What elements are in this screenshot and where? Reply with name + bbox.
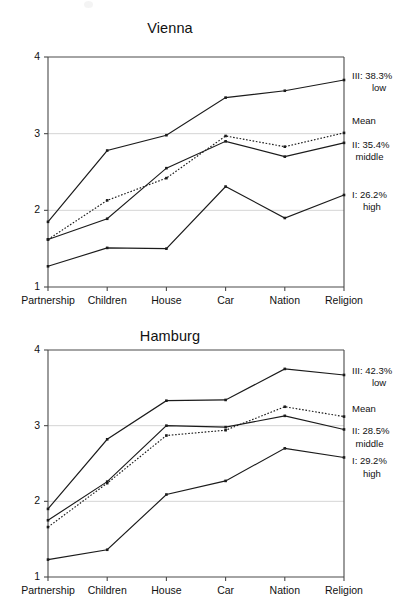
data-point <box>224 135 227 138</box>
x-axis-tick-label-2: House <box>151 294 181 306</box>
x-axis-tick-label-1: Children <box>88 584 127 596</box>
data-point <box>343 79 346 82</box>
data-point <box>224 426 227 429</box>
legend-label-primary: I: 26.2% <box>352 189 387 201</box>
legend-label-secondary: middle <box>352 438 390 450</box>
data-point <box>224 429 227 432</box>
legend-label-secondary: low <box>352 82 392 94</box>
legend-entry-2: II: 35.4%middle <box>352 139 390 163</box>
series-line-3 <box>48 448 344 559</box>
data-point <box>343 456 346 459</box>
legend-label-secondary: high <box>352 468 387 480</box>
data-point <box>284 368 287 371</box>
data-point <box>165 167 168 170</box>
legend-label-primary: II: 35.4% <box>352 139 390 151</box>
x-axis-tick-label-0: Partnership <box>21 294 75 306</box>
legend-label-secondary: middle <box>352 151 390 163</box>
data-point <box>165 134 168 137</box>
data-point <box>106 548 109 551</box>
data-point <box>284 415 287 418</box>
data-point <box>165 399 168 402</box>
legend-label-primary: Mean <box>352 115 376 127</box>
legend-entry-0: III: 38.3%low <box>352 70 392 94</box>
legend-entry-1: Mean <box>352 115 376 127</box>
y-axis-tick-label-4: 4 <box>18 343 40 355</box>
data-point <box>106 247 109 250</box>
data-point <box>284 405 287 408</box>
legend-entry-1: Mean <box>352 403 376 415</box>
data-point <box>47 508 50 511</box>
legend-entry-3: I: 26.2%high <box>352 189 387 213</box>
data-point <box>47 558 50 561</box>
data-point <box>224 399 227 402</box>
data-point <box>106 217 109 220</box>
y-axis-tick-label-3: 3 <box>18 127 40 139</box>
data-point <box>343 142 346 145</box>
y-axis-tick-label-4: 4 <box>18 50 40 62</box>
data-point <box>343 194 346 197</box>
data-point <box>284 145 287 148</box>
y-axis-tick-label-2: 2 <box>18 203 40 215</box>
data-point <box>224 96 227 99</box>
x-axis-tick-label-2: House <box>151 584 181 596</box>
series-line-0 <box>48 80 344 222</box>
legend-entry-3: I: 29.2%high <box>352 455 387 479</box>
y-axis-tick-label-1: 1 <box>18 280 40 292</box>
series-line-2 <box>48 416 344 520</box>
legend-label-secondary: low <box>352 377 392 389</box>
data-point <box>284 155 287 158</box>
legend-label-primary: I: 29.2% <box>352 455 387 467</box>
legend-label-primary: II: 28.5% <box>352 425 390 437</box>
data-point <box>47 238 50 241</box>
data-point <box>106 438 109 441</box>
figure-page: Vienna 4321PartnershipChildrenHouseCarNa… <box>0 0 416 615</box>
x-axis-tick-label-5: Religion <box>325 584 363 596</box>
chart-panel-vienna: Vienna 4321PartnershipChildrenHouseCarNa… <box>0 0 416 310</box>
data-point <box>284 447 287 450</box>
legend-label-primary: Mean <box>352 403 376 415</box>
data-point <box>343 428 346 431</box>
series-line-2 <box>48 141 344 239</box>
y-axis-tick-label-2: 2 <box>18 494 40 506</box>
x-axis-tick-label-3: Car <box>217 584 234 596</box>
data-point <box>106 480 109 483</box>
data-point <box>284 89 287 92</box>
data-point <box>47 221 50 224</box>
data-point <box>165 434 168 437</box>
legend-entry-0: III: 42.3%low <box>352 365 392 389</box>
legend-entry-2: II: 28.5%middle <box>352 425 390 449</box>
data-point <box>106 149 109 152</box>
series-line-3 <box>48 187 344 267</box>
data-point <box>284 217 287 220</box>
data-point <box>165 247 168 250</box>
data-point <box>106 199 109 202</box>
y-axis-tick-label-1: 1 <box>18 570 40 582</box>
data-point <box>165 493 168 496</box>
x-axis-tick-label-4: Nation <box>270 584 300 596</box>
data-point <box>343 132 346 135</box>
legend-label-primary: III: 42.3% <box>352 365 392 377</box>
data-point <box>165 177 168 180</box>
data-point <box>47 526 50 529</box>
x-axis-tick-label-1: Children <box>88 294 127 306</box>
legend-label-secondary: high <box>352 201 387 213</box>
x-axis-tick-label-5: Religion <box>325 294 363 306</box>
data-point <box>224 480 227 483</box>
data-point <box>343 415 346 418</box>
chart-panel-hamburg: Hamburg 4321PartnershipChildrenHouseCarN… <box>0 310 416 615</box>
data-point <box>47 265 50 268</box>
data-point <box>165 424 168 427</box>
data-point <box>47 519 50 522</box>
series-line-1 <box>48 407 344 527</box>
data-point <box>224 185 227 188</box>
x-axis-tick-label-3: Car <box>217 294 234 306</box>
data-point <box>343 374 346 377</box>
legend-label-primary: III: 38.3% <box>352 70 392 82</box>
y-axis-tick-label-3: 3 <box>18 419 40 431</box>
x-axis-tick-label-0: Partnership <box>21 584 75 596</box>
data-point <box>224 140 227 143</box>
x-axis-tick-label-4: Nation <box>270 294 300 306</box>
